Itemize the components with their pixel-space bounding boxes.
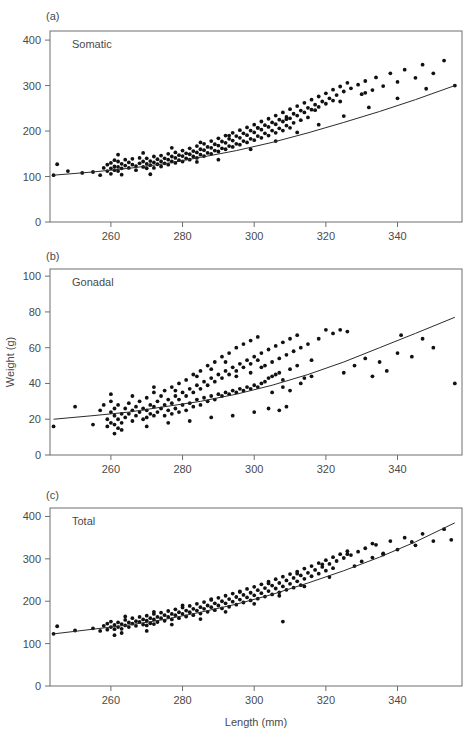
data-point: [220, 140, 224, 144]
data-point: [199, 387, 203, 391]
y-tick-label: 100: [23, 270, 41, 282]
data-point: [371, 88, 375, 92]
x-axis-title: Length (mm): [225, 716, 287, 728]
data-point: [145, 424, 149, 428]
data-point: [181, 154, 185, 158]
data-point: [152, 166, 156, 170]
data-point: [152, 414, 156, 418]
data-point: [105, 163, 109, 167]
data-point: [123, 164, 127, 168]
data-point: [399, 333, 403, 337]
data-point: [145, 614, 149, 618]
data-point: [224, 610, 228, 614]
data-point: [249, 137, 253, 141]
data-point: [317, 105, 321, 109]
data-point: [209, 146, 213, 150]
data-point: [252, 602, 256, 606]
data-point: [421, 63, 425, 67]
data-point: [259, 382, 263, 386]
data-point: [199, 141, 203, 145]
data-point: [209, 139, 213, 143]
data-point: [270, 121, 274, 125]
data-point: [385, 369, 389, 373]
data-point: [188, 387, 192, 391]
data-point: [145, 416, 149, 420]
data-point: [238, 362, 242, 366]
data-point: [345, 81, 349, 85]
data-point: [249, 371, 253, 375]
data-point: [242, 342, 246, 346]
data-point: [317, 572, 321, 576]
data-point: [335, 559, 339, 563]
data-point: [127, 621, 131, 625]
data-point: [224, 391, 228, 395]
data-point: [302, 567, 306, 571]
data-point: [363, 357, 367, 361]
data-point: [249, 129, 253, 133]
data-point: [449, 538, 453, 542]
y-tick-label: 20: [29, 413, 41, 425]
data-point: [188, 610, 192, 614]
plot-total: (c)0100200300400260280300320340TotalLeng…: [0, 490, 475, 750]
data-point: [285, 124, 289, 128]
x-tick-label: 320: [317, 230, 335, 242]
data-point: [302, 101, 306, 105]
data-point: [313, 103, 317, 107]
data-point: [231, 145, 235, 149]
y-tick-label: 80: [29, 306, 41, 318]
x-tick-label: 260: [102, 230, 120, 242]
data-point: [245, 596, 249, 600]
data-point: [388, 71, 392, 75]
data-point: [277, 371, 281, 375]
data-point: [177, 610, 181, 614]
data-point: [120, 162, 124, 166]
data-point: [195, 144, 199, 148]
data-point: [288, 572, 292, 576]
data-point: [145, 624, 149, 628]
data-point: [177, 398, 181, 402]
data-point: [202, 600, 206, 604]
data-point: [414, 76, 418, 80]
data-point: [109, 399, 113, 403]
data-point: [371, 374, 375, 378]
data-point: [270, 360, 274, 364]
data-point: [285, 353, 289, 357]
data-point: [120, 428, 124, 432]
data-point: [324, 102, 328, 106]
data-point: [378, 360, 382, 364]
data-point: [170, 623, 174, 627]
data-point: [324, 328, 328, 332]
data-point: [249, 591, 253, 595]
data-point: [170, 385, 174, 389]
data-point: [181, 149, 185, 153]
data-point: [224, 594, 228, 598]
data-point: [188, 152, 192, 156]
data-point: [227, 144, 231, 148]
data-point: [396, 96, 400, 100]
data-point: [274, 587, 278, 591]
x-tick-label: 340: [388, 463, 406, 475]
scatter-points: [52, 328, 457, 436]
data-point: [274, 122, 278, 126]
data-point: [216, 596, 220, 600]
data-point: [224, 360, 228, 364]
data-point: [52, 424, 56, 428]
data-point: [105, 622, 109, 626]
data-point: [281, 340, 285, 344]
data-point: [173, 407, 177, 411]
data-point: [173, 394, 177, 398]
data-point: [259, 365, 263, 369]
data-point: [324, 558, 328, 562]
data-point: [288, 367, 292, 371]
data-point: [66, 169, 70, 173]
data-point: [263, 364, 267, 368]
data-point: [206, 383, 210, 387]
data-point: [206, 151, 210, 155]
data-point: [263, 586, 267, 590]
data-point: [360, 560, 364, 564]
data-point: [267, 125, 271, 129]
data-point: [224, 147, 228, 151]
data-point: [202, 148, 206, 152]
data-point: [256, 588, 260, 592]
data-point: [259, 136, 263, 140]
